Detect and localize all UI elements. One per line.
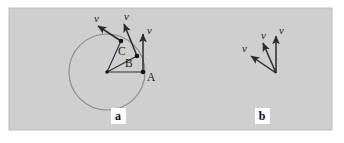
- velocity-label-b: v: [124, 10, 129, 22]
- panel-label-a: a: [115, 109, 121, 123]
- point-label-a: A: [147, 71, 156, 83]
- velocity-label-c: v: [94, 12, 99, 24]
- velocity-label-b-shifted: v: [261, 29, 266, 41]
- velocity-label-a-shifted: v: [279, 24, 284, 36]
- physics-vector-diagram: A B C v v v a v v v b: [0, 0, 344, 143]
- point-dot-b: [135, 54, 140, 59]
- point-dot-c: [119, 39, 124, 44]
- point-dot-a: [141, 70, 146, 75]
- point-label-c: C: [118, 45, 126, 57]
- point-label-b: B: [125, 57, 133, 69]
- panel-label-b: b: [259, 109, 266, 123]
- figure-container: A B C v v v a v v v b: [0, 0, 344, 143]
- velocity-label-c-shifted: v: [242, 42, 247, 54]
- center-dot: [105, 70, 108, 73]
- velocity-label-a: v: [147, 24, 152, 36]
